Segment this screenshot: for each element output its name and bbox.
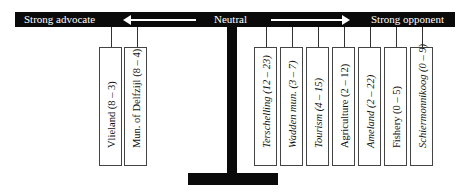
opponent-box-fishery: Fishery (0 – 5) — [384, 47, 407, 166]
connector-line — [137, 27, 138, 47]
box-label: Mun. of Delfzijl (8 – 4) — [130, 49, 141, 148]
connector-line — [344, 27, 345, 47]
right-arrow-head-icon — [342, 15, 350, 25]
connector-line — [396, 27, 397, 47]
advocate-box-delfzijl: Mun. of Delfzijl (8 – 4) — [124, 47, 147, 166]
left-arrow-shaft — [130, 19, 196, 21]
fulcrum-stem — [227, 27, 237, 177]
box-label: Wadden mun. (3 – 7) — [286, 61, 297, 148]
box-label: Agriculture (2 – 12) — [338, 64, 349, 148]
connector-line — [292, 27, 293, 47]
box-label: Schiermonnikoog (0 – 9) — [416, 44, 427, 148]
connector-line — [111, 27, 112, 47]
opponent-box-schiermonnikoog: Schiermonnikoog (0 – 9) — [410, 47, 433, 166]
box-label: Tourism (4 – 15) — [312, 78, 323, 148]
opponent-box-agriculture: Agriculture (2 – 12) — [332, 47, 355, 166]
box-label: Fishery (0 – 5) — [390, 86, 401, 148]
connector-line — [318, 27, 319, 47]
connector-line — [266, 27, 267, 47]
box-label: Ameland (2 – 22) — [364, 75, 375, 148]
opponent-box-terschelling: Terschelling (12 – 23) — [254, 47, 277, 166]
connector-line — [370, 27, 371, 47]
box-label: Terschelling (12 – 23) — [260, 55, 271, 148]
opponent-box-ameland: Ameland (2 – 22) — [358, 47, 381, 166]
right-arrow-shaft — [271, 19, 344, 21]
neutral-label: Neutral — [214, 12, 247, 27]
fulcrum-base — [188, 173, 278, 185]
opponent-box-wadden-mun: Wadden mun. (3 – 7) — [280, 47, 303, 166]
strong-advocate-label: Strong advocate — [24, 12, 95, 27]
box-label: Vlieland (8 – 3) — [105, 81, 116, 148]
strong-opponent-label: Strong opponent — [371, 12, 444, 27]
opponent-box-tourism: Tourism (4 – 15) — [306, 47, 329, 166]
advocate-box-vlieland: Vlieland (8 – 3) — [99, 47, 122, 166]
